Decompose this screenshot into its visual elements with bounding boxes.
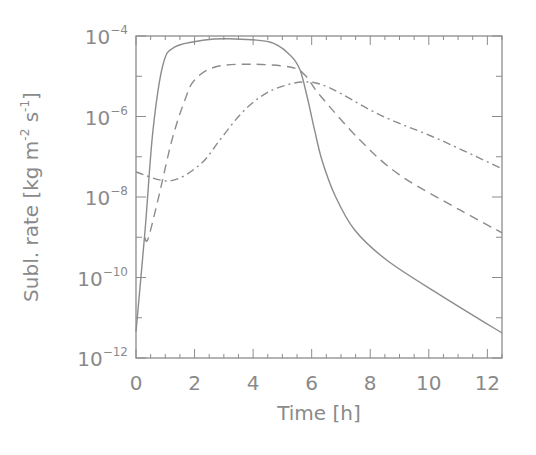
y-tick-label: 10−8	[85, 184, 128, 210]
x-tick-label: 0	[130, 371, 143, 395]
x-tick-label: 6	[305, 371, 318, 395]
x-tick-label: 2	[188, 371, 201, 395]
series-line-dashed	[145, 64, 502, 241]
x-axis-title: Time [h]	[276, 401, 361, 425]
plot-lines	[136, 39, 502, 333]
x-axis-tick-labels: 024681012	[130, 371, 500, 395]
y-tick-label: 10−12	[77, 345, 128, 371]
y-axis-title: Subl. rate [kg m-2 s-1]	[18, 92, 43, 302]
y-tick-label: 10−10	[77, 265, 128, 291]
x-tick-label: 8	[364, 371, 377, 395]
y-tick-label: 10−6	[85, 104, 128, 130]
series-line-solid	[136, 39, 502, 333]
x-tick-label: 12	[475, 371, 500, 395]
series-line-dash-dot	[136, 82, 502, 181]
y-tick-label: 10−4	[85, 23, 128, 49]
x-tick-label: 4	[247, 371, 260, 395]
x-tick-label: 10	[416, 371, 441, 395]
sublimation-rate-chart: 024681012 10−410−610−810−1010−12 Time [h…	[0, 0, 536, 455]
y-axis-tick-labels: 10−410−610−810−1010−12	[77, 23, 128, 371]
